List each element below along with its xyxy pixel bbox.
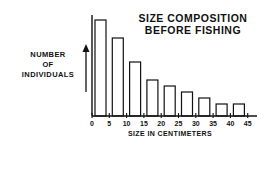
x-tick-label: 40 — [227, 120, 235, 127]
bar-5-10 — [112, 38, 123, 116]
x-tick-label: 0 — [90, 120, 94, 127]
bar-40-45 — [233, 104, 244, 116]
bar-chart: 051015202530354045 — [0, 0, 272, 185]
x-tick-label: 15 — [140, 120, 148, 127]
x-tick-label: 25 — [175, 120, 183, 127]
bar-25-30 — [182, 92, 193, 116]
bar-15-20 — [147, 80, 158, 116]
bar-10-15 — [130, 62, 141, 116]
up-arrow-icon — [83, 44, 90, 92]
x-tick-label: 35 — [209, 120, 217, 127]
x-tick-label: 45 — [244, 120, 252, 127]
x-tick-label: 20 — [157, 120, 165, 127]
x-tick-label: 30 — [192, 120, 200, 127]
bar-35-40 — [216, 104, 227, 116]
bars — [95, 20, 244, 116]
bar-30-35 — [199, 98, 210, 116]
x-tick-label: 10 — [123, 120, 131, 127]
bar-0-5 — [95, 20, 106, 116]
bar-20-25 — [164, 86, 175, 116]
x-tick-label: 5 — [107, 120, 111, 127]
